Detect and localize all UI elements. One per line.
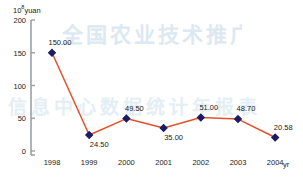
x-tick-label: 2001 bbox=[147, 158, 181, 167]
y-tick-label: 200 bbox=[0, 16, 26, 25]
x-tick-label: 2002 bbox=[184, 158, 218, 167]
plot-surface bbox=[0, 0, 303, 182]
x-tick-label: 2000 bbox=[109, 158, 143, 167]
data-point-label: 35.00 bbox=[154, 133, 194, 142]
y-tick-label: 0 bbox=[0, 147, 26, 156]
data-point-label: 20.58 bbox=[263, 123, 303, 132]
data-point-label: 24.50 bbox=[79, 140, 119, 149]
data-point-label: 51.00 bbox=[189, 103, 229, 112]
y-tick-label: 150 bbox=[0, 49, 26, 58]
series-layer bbox=[49, 49, 279, 141]
data-point-label: 48.70 bbox=[226, 104, 266, 113]
axis-layer bbox=[31, 20, 35, 155]
data-point-marker bbox=[272, 134, 279, 141]
y-tick-label: 100 bbox=[0, 82, 26, 91]
x-tick-label: 1999 bbox=[72, 158, 106, 167]
x-tick-label: 1998 bbox=[35, 158, 69, 167]
data-point-marker bbox=[86, 132, 93, 139]
data-point-marker bbox=[49, 49, 56, 56]
data-point-label: 49.50 bbox=[114, 104, 154, 113]
x-tick-label: 2004 bbox=[258, 158, 292, 167]
data-point-marker bbox=[123, 115, 130, 122]
data-point-marker bbox=[197, 114, 204, 121]
data-point-marker bbox=[235, 116, 242, 123]
data-point-marker bbox=[160, 125, 167, 132]
x-tick-label: 2003 bbox=[221, 158, 255, 167]
line-chart: 全国农业技术推广服务 信息中心数据统计年报表 108yuan yr 050100… bbox=[0, 0, 303, 182]
data-point-label: 150.00 bbox=[40, 38, 80, 47]
y-tick-label: 50 bbox=[0, 114, 26, 123]
